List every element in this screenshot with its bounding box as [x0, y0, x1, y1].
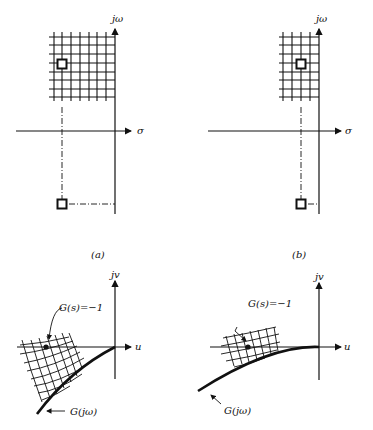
pole-box-upper: [58, 60, 67, 69]
root-compensation-figure: jω σ (a) jω σ (b): [0, 0, 373, 430]
curve-label: G(jω): [70, 406, 97, 417]
nyquist-curve: [198, 347, 319, 391]
point-label: G(s)=−1: [59, 302, 103, 313]
pole-box-lower: [297, 200, 306, 209]
curve-arrow: [211, 395, 221, 404]
panel-b-g-plane: jv u G(s)=−1 G(jω): [198, 271, 350, 416]
u-axis-label: u: [344, 341, 350, 352]
panel-a-g-plane: jv u G(s)=−1 G(jω): [17, 269, 141, 417]
curve-label: G(jω): [224, 405, 251, 416]
point-label: G(s)=−1: [248, 298, 292, 309]
sigma-axis-label: σ: [137, 125, 145, 136]
jw-axis-label: jω: [314, 13, 327, 24]
jv-axis-label: jv: [313, 271, 324, 282]
sigma-axis-label: σ: [345, 125, 353, 136]
caption-b: (b): [292, 249, 306, 260]
pole-box-lower: [58, 200, 67, 209]
jv-axis-label: jv: [109, 269, 120, 280]
mapped-grid: [20, 333, 87, 402]
jw-axis-label: jω: [110, 13, 123, 24]
critical-point: [43, 344, 48, 349]
pole-box-upper: [297, 60, 306, 69]
panel-a-s-plane: jω σ: [16, 13, 145, 214]
critical-point: [245, 344, 250, 349]
panel-b-s-plane: jω σ: [208, 13, 353, 214]
caption-a: (a): [91, 249, 105, 260]
u-axis-label: u: [135, 341, 141, 352]
